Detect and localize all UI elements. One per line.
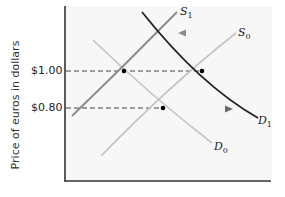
label-s1: S1	[180, 5, 193, 20]
y-tick-high: $1.00	[31, 64, 63, 77]
y-axis-label-text: Price of euros in dollars	[9, 41, 22, 170]
equilibrium-point-s1-d0	[122, 69, 127, 74]
equilibrium-point-s0-d1	[200, 69, 205, 74]
label-s0: S0	[238, 26, 251, 41]
y-tick-low: $0.80	[31, 101, 63, 114]
label-d1: D1	[258, 114, 272, 129]
equilibrium-point-s0-d0	[161, 106, 166, 111]
y-axis-label: Price of euros in dollars	[2, 40, 28, 170]
label-d0: D0	[214, 140, 228, 155]
